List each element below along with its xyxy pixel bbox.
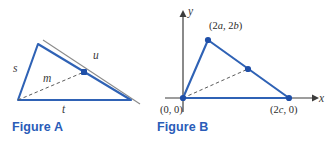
figure-b-x-axis-label: x xyxy=(318,92,325,104)
figure-b-point-midpoint xyxy=(245,66,251,72)
figure-b-triangle xyxy=(183,40,289,98)
figure-b-diagram: y x (0, 0) (2a, 2b) (2c, 0) xyxy=(155,0,333,118)
figure-b-point-base-right xyxy=(286,95,292,101)
figure-a-label-u: u xyxy=(93,49,99,61)
figure-a-triangle xyxy=(18,44,131,100)
figure-b-label-origin: (0, 0) xyxy=(160,104,183,116)
figure-b-label-apex: (2a, 2b) xyxy=(209,20,243,32)
figure-a-caption: Figure A xyxy=(12,120,63,134)
figure-a-label-s: s xyxy=(13,62,18,74)
figure-a-label-t: t xyxy=(62,103,66,115)
figure-pair-container: s m t u y x (0, 0) xyxy=(0,0,333,145)
apex-mid: , 2 xyxy=(223,20,234,31)
figure-a-midpoint-dot xyxy=(81,69,87,75)
figure-b-label-base-right: (2c, 0) xyxy=(270,104,298,116)
apex-close: ) xyxy=(239,20,243,32)
figure-b-point-origin xyxy=(180,95,186,101)
figure-b-y-axis-label: y xyxy=(187,5,194,18)
figure-a-gray-guide-line xyxy=(43,40,140,104)
base-right-close: , 0) xyxy=(283,104,298,116)
apex-open: (2 xyxy=(209,20,218,32)
base-right-open: (2 xyxy=(270,104,279,116)
figure-a-label-m: m xyxy=(43,72,51,84)
figure-a-diagram: s m t u xyxy=(0,0,155,118)
figure-b-caption: Figure B xyxy=(157,120,209,134)
figure-b-point-apex xyxy=(205,37,211,43)
